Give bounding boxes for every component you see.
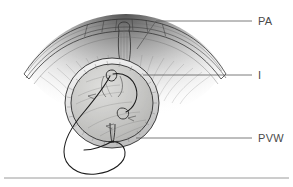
anatomical-illustration: PA I PVW [0, 0, 293, 187]
label-pa: PA [258, 15, 273, 27]
figure-container: PA I PVW [0, 0, 293, 187]
label-pvw: PVW [258, 132, 284, 144]
label-i: I [258, 69, 261, 81]
